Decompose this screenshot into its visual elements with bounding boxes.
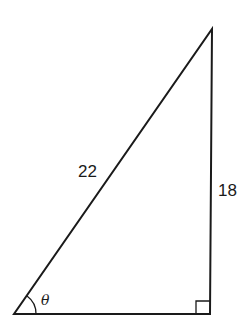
angle-arc-icon [27, 296, 36, 314]
triangle [14, 29, 212, 314]
angle-theta-label: θ [41, 293, 49, 307]
triangle-diagram: 22 18 θ [0, 0, 247, 328]
triangle-figure [0, 0, 247, 328]
right-angle-marker-icon [196, 301, 210, 314]
opposite-side-label: 18 [218, 182, 237, 199]
hypotenuse-label: 22 [78, 163, 97, 180]
